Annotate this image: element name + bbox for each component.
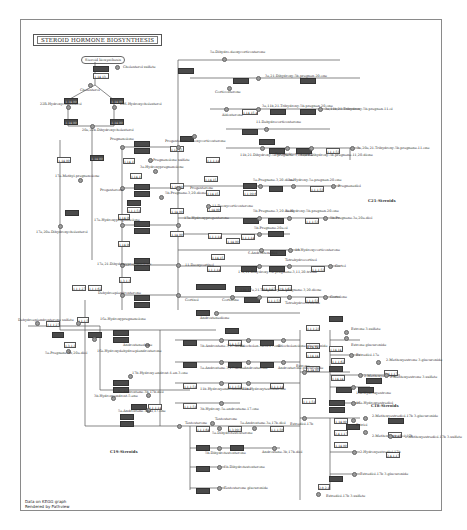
gene-node[interactable] (329, 476, 343, 482)
gene-node[interactable]: 1.1.1.51 (183, 403, 197, 409)
gene-node[interactable]: 1.1.1.145 (206, 157, 220, 163)
gene-node[interactable] (134, 191, 150, 197)
gene-node[interactable]: 1.14.13.- (93, 73, 109, 79)
gene-node[interactable] (233, 78, 249, 84)
gene-node[interactable] (134, 141, 150, 147)
compound-node[interactable] (316, 492, 321, 497)
compound-node[interactable] (281, 360, 286, 365)
compound-node[interactable] (148, 158, 153, 163)
compound-node[interactable] (219, 360, 224, 365)
gene-node[interactable]: 1.1.1.51 (302, 398, 316, 404)
gene-node[interactable]: 1.14.14.1 (329, 346, 343, 352)
gene-node[interactable]: 1.1.1.62 (331, 358, 345, 364)
gene-node[interactable]: 1.3.1.3 (64, 342, 76, 348)
gene-node[interactable]: 1.1.1.50 (270, 426, 284, 432)
compound-node[interactable] (224, 107, 229, 112)
gene-node[interactable] (329, 407, 345, 413)
gene-node[interactable] (243, 183, 257, 189)
gene-node[interactable] (134, 184, 150, 190)
gene-node[interactable] (269, 186, 283, 192)
compound-node[interactable] (192, 134, 197, 139)
compound-node[interactable] (112, 105, 117, 110)
compound-node[interactable] (376, 360, 381, 365)
gene-node[interactable] (300, 109, 316, 115)
compound-node[interactable] (246, 338, 251, 343)
compound-node[interactable] (177, 424, 182, 429)
gene-node[interactable]: 1.1.1.51 (183, 383, 197, 389)
gene-node[interactable] (242, 129, 258, 135)
compound-node[interactable] (258, 184, 263, 189)
compound-node[interactable] (256, 107, 261, 112)
compound-node[interactable] (246, 381, 251, 386)
gene-node[interactable] (127, 200, 141, 206)
compound-node[interactable] (323, 216, 328, 221)
gene-node[interactable]: 1.14.14.1 (331, 375, 345, 381)
compound-node[interactable] (222, 57, 227, 62)
compound-node[interactable] (388, 434, 393, 439)
compound-node[interactable] (257, 216, 262, 221)
compound-node[interactable] (287, 216, 292, 221)
compound-node[interactable] (120, 223, 125, 228)
gene-node[interactable] (388, 418, 404, 424)
compound-node[interactable] (358, 373, 363, 378)
compound-node[interactable] (344, 336, 349, 341)
compound-node[interactable] (252, 426, 257, 431)
compound-node[interactable] (88, 83, 93, 88)
gene-node[interactable] (300, 78, 316, 84)
compound-node[interactable] (285, 146, 290, 151)
compound-node[interactable] (318, 107, 323, 112)
compound-node[interactable] (260, 146, 265, 151)
compound-node[interactable] (219, 401, 224, 406)
compound-node[interactable] (344, 330, 349, 335)
gene-node[interactable]: 1.1.1.53 (267, 297, 281, 303)
gene-node[interactable] (178, 68, 194, 74)
gene-node[interactable]: 1.14.15 (123, 158, 135, 164)
gene-node[interactable]: 1.14.99 (170, 231, 184, 237)
compound-node[interactable] (217, 465, 222, 470)
compound-node[interactable] (331, 184, 336, 189)
compound-node[interactable] (214, 311, 219, 316)
gene-node[interactable] (196, 284, 226, 290)
compound-node[interactable] (206, 204, 211, 209)
gene-node[interactable] (134, 228, 150, 234)
compound-node[interactable] (256, 76, 261, 81)
compound-node[interactable] (219, 338, 224, 343)
compound-node[interactable] (349, 353, 354, 358)
compound-node[interactable] (288, 248, 293, 253)
compound-node[interactable] (281, 338, 286, 343)
gene-node[interactable] (366, 378, 382, 384)
gene-node[interactable]: 1.14.99 (57, 157, 71, 163)
gene-node[interactable] (113, 380, 129, 386)
gene-node[interactable] (134, 295, 150, 301)
gene-node[interactable] (329, 366, 343, 372)
compound-node[interactable] (58, 224, 63, 229)
gene-node[interactable] (93, 66, 109, 72)
gene-node[interactable]: 1.14.14.1 (306, 352, 320, 358)
compound-node[interactable] (176, 186, 181, 191)
gene-node[interactable]: 1.14.99 (334, 418, 348, 424)
compound-node[interactable] (302, 416, 307, 421)
compound-node[interactable] (328, 264, 333, 269)
gene-node[interactable]: 1.1.99.6 (243, 190, 257, 196)
gene-node[interactable] (329, 316, 343, 322)
compound-node[interactable] (176, 263, 181, 268)
compound-node[interactable] (217, 426, 222, 431)
gene-node[interactable]: 2.4.1.17 (334, 430, 348, 436)
compound-node[interactable] (287, 295, 292, 300)
gene-node[interactable]: 1.14.15.6 (204, 176, 218, 182)
gene-node[interactable] (134, 302, 150, 308)
gene-node[interactable]: 1.14.99 (110, 119, 124, 125)
gene-node[interactable] (183, 362, 197, 368)
compound-node[interactable] (291, 184, 296, 189)
compound-node[interactable] (92, 337, 97, 342)
compound-node[interactable] (210, 421, 215, 426)
compound-node[interactable] (363, 416, 368, 421)
compound-node[interactable] (76, 321, 81, 326)
gene-node[interactable]: 1.14.99 (64, 119, 78, 125)
gene-node[interactable] (268, 218, 284, 224)
gene-node[interactable] (52, 332, 64, 338)
gene-node[interactable]: 1.1.1.53 (305, 218, 319, 224)
compound-node[interactable] (176, 223, 181, 228)
compound-node[interactable] (115, 65, 120, 70)
compound-node[interactable] (217, 486, 222, 491)
